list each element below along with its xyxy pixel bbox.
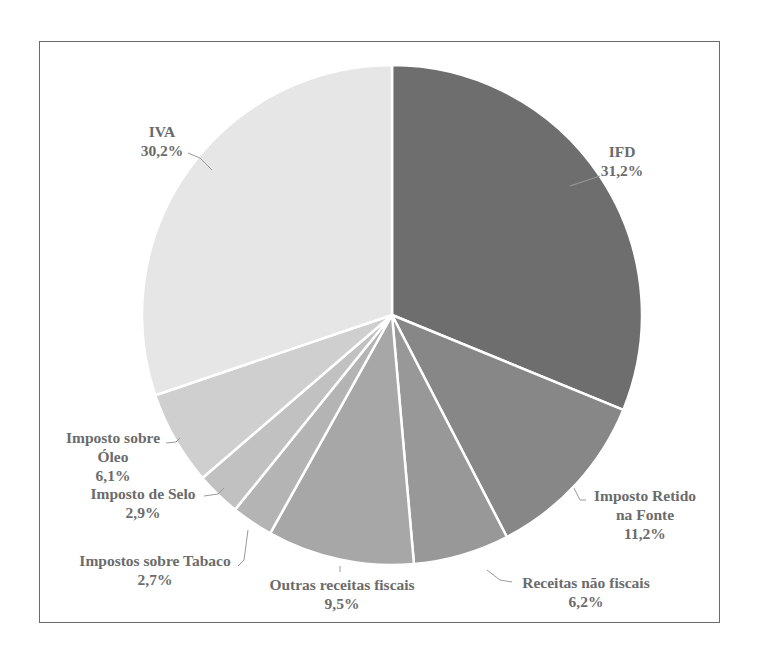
label-outras-receitas-fiscais: Outras receitas fiscais 9,5%	[269, 575, 414, 613]
label-outras-pct: 9,5%	[269, 594, 414, 613]
label-impostos-tabaco: Impostos sobre Tabaco 2,7%	[79, 551, 230, 589]
label-imposto-oleo: Imposto sobre Óleo 6,1%	[66, 428, 160, 485]
label-ifd-pct: 31,2%	[601, 161, 644, 180]
label-iva-name: IVA	[141, 122, 184, 141]
label-retido-name-1: Imposto Retido	[594, 486, 696, 505]
leader-retido	[574, 488, 586, 500]
label-ifd-name: IFD	[601, 142, 644, 161]
label-oleo-name-1: Imposto sobre	[66, 428, 160, 447]
label-iva-pct: 30,2%	[141, 141, 184, 160]
label-nao-fiscais-pct: 6,2%	[522, 592, 649, 611]
leader-tabaco	[238, 530, 248, 566]
label-outras-name: Outras receitas fiscais	[269, 575, 414, 594]
label-receitas-nao-fiscais: Receitas não fiscais 6,2%	[522, 573, 649, 611]
label-retido-pct: 11,2%	[594, 524, 696, 543]
label-ifd: IFD 31,2%	[601, 142, 644, 180]
label-nao-fiscais-name: Receitas não fiscais	[522, 573, 649, 592]
pie-slices	[142, 65, 642, 565]
label-tabaco-name: Impostos sobre Tabaco	[79, 551, 230, 570]
label-tabaco-pct: 2,7%	[79, 570, 230, 589]
label-imposto-selo: Imposto de Selo 2,9%	[90, 484, 195, 522]
leader-nao-fiscais	[487, 570, 512, 582]
label-selo-name: Imposto de Selo	[90, 484, 195, 503]
label-oleo-pct: 6,1%	[66, 466, 160, 485]
label-oleo-name-2: Óleo	[66, 447, 160, 466]
label-iva: IVA 30,2%	[141, 122, 184, 160]
label-selo-pct: 2,9%	[90, 503, 195, 522]
label-imposto-retido: Imposto Retido na Fonte 11,2%	[594, 486, 696, 543]
label-retido-name-2: na Fonte	[594, 505, 696, 524]
